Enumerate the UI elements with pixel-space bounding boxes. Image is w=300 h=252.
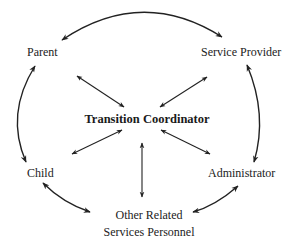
node-transition-coordinator: Transition Coordinator: [84, 112, 209, 126]
arrow-child-parent: [17, 66, 35, 162]
arrow-other-personnel-child: [43, 183, 90, 212]
node-administrator: Administrator: [208, 166, 275, 180]
node-other-related-line1: Other Related: [116, 208, 183, 222]
node-parent: Parent: [27, 45, 58, 59]
node-service-provider: Service Provider: [201, 45, 281, 59]
arrow-administrator-other-personnel: [193, 186, 238, 212]
arrow-service-provider-administrator: [247, 65, 260, 162]
arrow-parent-service-provider: [62, 12, 222, 40]
node-child: Child: [27, 166, 54, 180]
node-other-related-line2: Services Personnel: [104, 225, 195, 239]
spoke-parent: [77, 76, 124, 107]
spoke-child: [72, 130, 122, 154]
spoke-service-provider: [160, 77, 207, 107]
spoke-administrator: [161, 130, 210, 154]
